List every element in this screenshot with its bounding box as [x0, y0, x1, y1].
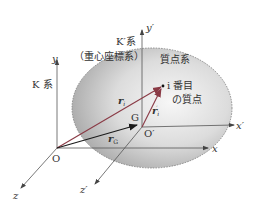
- k-frame-label: K 系: [32, 79, 53, 90]
- k-x-label: x: [212, 143, 218, 154]
- particle-point: [162, 85, 165, 88]
- kprime-frame-label: K′系: [116, 36, 136, 47]
- origin-oprime-label: O′: [144, 128, 155, 139]
- particle-label-line1: i 番目: [167, 80, 193, 91]
- k-y-label: y: [51, 53, 58, 64]
- particle-label-line2: の質点: [172, 93, 202, 105]
- kprime-z-label: z′: [79, 184, 88, 195]
- diagram-canvas: K 系 y x z O K′系 （重心座標系） y′ x′ z′ O′ 質点系 …: [0, 0, 256, 216]
- kprime-y-label: y′: [145, 22, 155, 33]
- k-z-label: z: [12, 190, 19, 201]
- particle-system-label: 質点系: [160, 53, 190, 65]
- coordinate-diagram: K 系 y x z O K′系 （重心座標系） y′ x′ z′ O′ 質点系 …: [0, 0, 256, 216]
- origin-o-label: O: [52, 153, 60, 164]
- kprime-x-label: x′: [236, 120, 245, 131]
- kprime-frame-sublabel: （重心座標系）: [74, 50, 144, 62]
- center-of-mass-label: G: [131, 112, 139, 123]
